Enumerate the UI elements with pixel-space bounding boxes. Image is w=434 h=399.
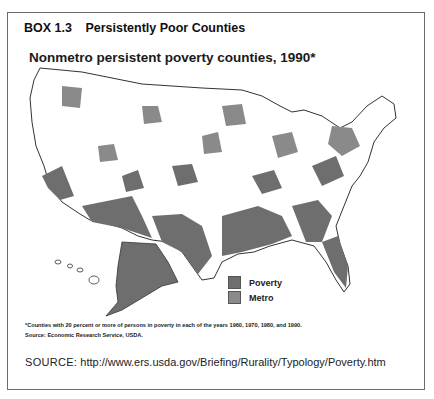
- us-poverty-map: [22, 66, 422, 326]
- metro-swatch: [228, 291, 241, 304]
- legend-item-poverty: Poverty: [228, 275, 282, 290]
- map-title: Nonmetro persistent poverty counties, 19…: [29, 50, 316, 65]
- box-title: Persistently Poor Counties: [85, 21, 245, 35]
- source-line: SOURCE: http://www.ers.usda.gov/Briefing…: [25, 356, 386, 368]
- legend-label-metro: Metro: [249, 293, 274, 303]
- poverty-swatch: [228, 276, 241, 289]
- footnote-text: *Counties with 20 percent or more of per…: [25, 320, 302, 330]
- source-label: SOURCE:: [25, 356, 77, 368]
- map-legend: Poverty Metro: [228, 275, 282, 305]
- legend-item-metro: Metro: [228, 290, 282, 305]
- box-number: BOX 1.3: [24, 21, 72, 35]
- box-heading: BOX 1.3 Persistently Poor Counties: [24, 21, 245, 35]
- map-source-text: Source: Economic Research Service, USDA.: [25, 330, 302, 340]
- alaska-outline: [106, 242, 178, 316]
- source-url[interactable]: http://www.ers.usda.gov/Briefing/Ruralit…: [80, 356, 385, 368]
- map-footnote: *Counties with 20 percent or more of per…: [25, 320, 302, 340]
- hawaii-outline: [55, 260, 99, 284]
- legend-label-poverty: Poverty: [249, 278, 282, 288]
